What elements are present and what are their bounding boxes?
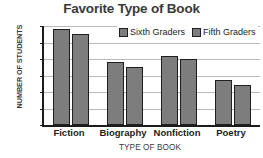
y-axis-tick [40,59,44,60]
bar [107,62,125,125]
bar [234,85,252,125]
y-axis-tick [40,92,44,93]
bar [215,80,233,125]
bar-chart: Favorite Type of Book NUMBER OF STUDENTS… [0,0,263,158]
bar [126,67,144,125]
y-axis-tick [40,76,44,77]
y-axis-tick [40,109,44,110]
legend-entry: Sixth Graders [119,27,185,37]
y-axis-tick [40,43,44,44]
x-axis-title: TYPE OF BOOK [42,143,258,152]
legend-swatch-icon [119,28,128,37]
x-axis-tick-label: Fiction [42,127,96,138]
legend-label: Sixth Graders [130,27,185,37]
x-axis-tick-label: Poetry [204,127,258,138]
x-axis-tick-label: Biography [96,127,150,138]
bar [180,59,198,125]
chart-legend: Sixth GradersFifth Graders [117,26,258,38]
bar [53,29,71,125]
bar [72,34,90,125]
y-axis-title: NUMBER OF STUDENTS [15,11,24,123]
x-axis-tick-label: Nonfiction [150,127,204,138]
y-axis-tick [40,26,44,27]
legend-swatch-icon [192,28,201,37]
plot-area [42,26,260,127]
y-axis-tick [40,125,44,126]
bar [161,56,179,125]
legend-entry: Fifth Graders [192,27,256,37]
chart-title: Favorite Type of Book [0,1,263,16]
legend-label: Fifth Graders [203,27,256,37]
